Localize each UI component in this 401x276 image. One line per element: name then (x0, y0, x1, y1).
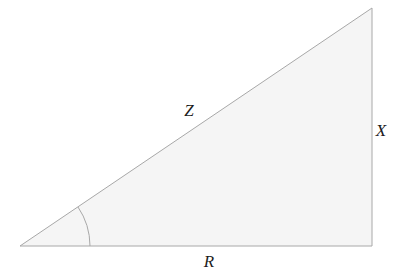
figure-canvas: Z X R (0, 0, 401, 276)
horizontal-leg-label: R (204, 253, 214, 270)
triangle-diagram (0, 0, 401, 276)
vertical-leg-label: X (376, 122, 386, 139)
hypotenuse-label: Z (184, 102, 193, 119)
triangle-shape (20, 8, 372, 246)
